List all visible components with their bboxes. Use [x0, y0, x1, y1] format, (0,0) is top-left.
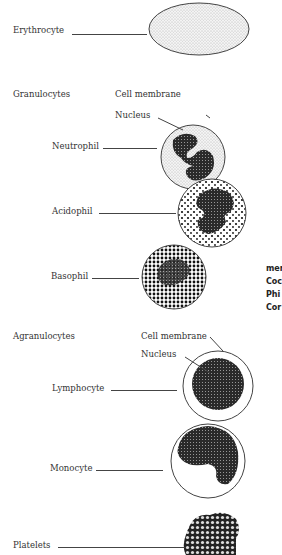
blood-cells-illustration [0, 0, 282, 555]
clipped-text-line: Phi [266, 288, 282, 301]
platelets-leader-line [58, 547, 184, 548]
clipped-text-line: mer [266, 262, 282, 275]
basophil-label: Basophil [51, 271, 88, 281]
platelets-label: Platelets [13, 540, 50, 550]
agranulocytes-heading: Agranulocytes [13, 331, 75, 341]
lymphocyte-leader-line [111, 390, 177, 391]
platelets-cluster [184, 513, 239, 555]
agranulocyte-cell-membrane-label: Cell membrane [141, 331, 207, 341]
monocyte-label: Monocyte [50, 463, 92, 473]
erythrocyte-leader-line [72, 34, 147, 35]
agranulocyte-nucleus-label: Nucleus [141, 349, 176, 359]
granulocyte-cell-membrane-label: Cell membrane [115, 89, 181, 99]
clipped-text-line: Cor [266, 301, 282, 314]
erythrocyte-cell [149, 3, 249, 55]
neutrophil-label: Neutrophil [52, 141, 99, 151]
acidophil-label: Acidophil [52, 206, 93, 216]
granulocytes-heading: Granulocytes [13, 89, 70, 99]
acidophil-leader-line [99, 213, 176, 214]
granulocyte-nucleus-label: Nucleus [115, 110, 150, 120]
erythrocyte-label: Erythrocyte [13, 25, 64, 35]
clipped-side-text: mer Coc Phi Cor [266, 262, 282, 314]
lymphocyte-label: Lymphocyte [52, 383, 104, 393]
lymphocyte-nucleus [192, 358, 244, 410]
neutrophil-leader-line [103, 148, 157, 149]
monocyte-leader-line [96, 470, 163, 471]
clipped-text-line: Coc [266, 275, 282, 288]
basophil-leader-line [92, 278, 139, 279]
